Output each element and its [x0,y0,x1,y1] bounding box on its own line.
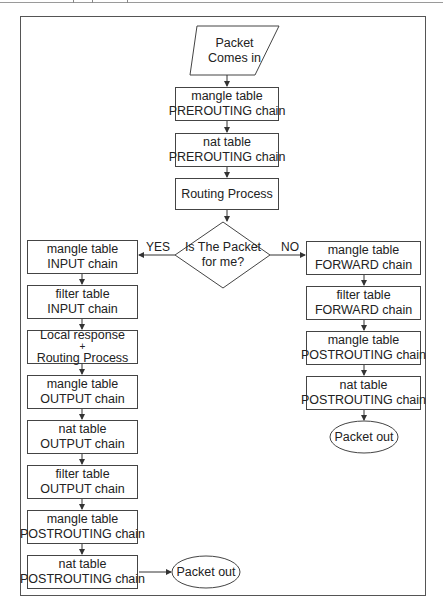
box-line1: Routing Process [181,187,273,202]
filter-input-box: filter table INPUT chain [27,285,138,319]
box-line2: POSTROUTING chain [20,527,145,542]
box-line1: mangle table [40,377,125,392]
nat-postrouting-box-right: nat table POSTROUTING chain [306,376,421,410]
box-line1: mangle table [47,242,119,257]
box-line1: nat table [169,135,286,150]
box-line2: PREROUTING chain [169,104,286,119]
filter-forward-box: filter table FORWARD chain [306,286,421,320]
box-line2: OUTPUT chain [40,392,125,407]
nat-prerouting-box: nat table PREROUTING chain [175,133,279,167]
box-line2: POSTROUTING chain [301,348,426,363]
box-line1: nat table [301,378,426,393]
packet-out-right: Packet out [330,421,398,453]
filter-output-box: filter table OUTPUT chain [27,465,138,499]
box-line2: POSTROUTING chain [301,393,426,408]
mangle-forward-box: mangle table FORWARD chain [306,241,421,275]
mangle-postrouting-box-left: mangle table POSTROUTING chain [27,510,138,544]
packet-out-left: Packet out [172,556,240,588]
box-line1: mangle table [169,89,286,104]
box-line1: nat table [40,422,125,437]
no-label: NO [281,240,299,254]
box-line2: PREROUTING chain [169,150,286,165]
yes-label: YES [146,240,170,254]
packet-out-label: Packet out [176,565,235,580]
box-line1: filter table [315,288,412,303]
box-line1: mangle table [301,333,426,348]
box-line2: OUTPUT chain [40,482,125,497]
nat-output-box: nat table OUTPUT chain [27,420,138,454]
box-line1: filter table [47,287,118,302]
box-line2: FORWARD chain [315,303,412,318]
box-line2: Routing Process [37,351,129,366]
mangle-input-box: mangle table INPUT chain [27,240,138,274]
box-line1: mangle table [20,512,145,527]
start-node: Packet Comes in [190,26,279,75]
packet-out-label: Packet out [334,430,393,445]
box-line1: mangle table [315,243,412,258]
start-line2: Comes in [208,51,261,66]
mangle-output-box: mangle table OUTPUT chain [27,375,138,409]
routing-process-box: Routing Process [175,178,279,210]
nat-postrouting-box-left: nat table POSTROUTING chain [27,555,138,589]
box-line2: INPUT chain [47,302,118,317]
box-line2: INPUT chain [47,257,119,272]
decision-node: Is The Packet for me? [180,238,266,272]
plus-sign: + [37,343,129,351]
mangle-prerouting-box: mangle table PREROUTING chain [175,87,279,121]
mangle-postrouting-box-right: mangle table POSTROUTING chain [306,331,421,365]
start-line1: Packet [208,36,261,51]
decision-line2: for me? [185,255,261,270]
box-line2: FORWARD chain [315,258,412,273]
box-line1: nat table [20,557,145,572]
box-line2: OUTPUT chain [40,437,125,452]
local-response-box: Local response + Routing Process [27,330,138,364]
decision-line1: Is The Packet [185,240,261,255]
box-line1: filter table [40,467,125,482]
box-line2: POSTROUTING chain [20,572,145,587]
